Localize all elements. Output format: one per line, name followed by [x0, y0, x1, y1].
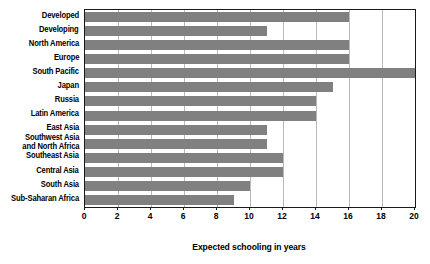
- x-tick-mark: [84, 207, 85, 210]
- category-label: East Asia: [46, 124, 79, 133]
- bar: [85, 195, 234, 205]
- x-tick-label: 20: [402, 211, 426, 221]
- category-label: South Asia: [41, 181, 79, 190]
- bar-series: [85, 10, 415, 207]
- x-axis: 02468101214161820: [84, 207, 414, 231]
- bar: [85, 54, 349, 64]
- x-tick-mark: [282, 207, 283, 210]
- x-tick-mark: [216, 207, 217, 210]
- bar: [85, 153, 283, 163]
- x-tick-mark: [150, 207, 151, 210]
- x-tick-label: 6: [171, 211, 195, 221]
- x-tick-label: 2: [105, 211, 129, 221]
- x-tick-mark: [381, 207, 382, 210]
- expected-schooling-bar-chart: DevelopedDevelopingNorth AmericaEuropeSo…: [0, 0, 430, 264]
- x-tick-label: 12: [270, 211, 294, 221]
- x-tick-mark: [117, 207, 118, 210]
- bar: [85, 40, 349, 50]
- plot-area: [84, 9, 416, 208]
- bar: [85, 125, 267, 135]
- x-tick-mark: [183, 207, 184, 210]
- x-tick-mark: [315, 207, 316, 210]
- x-tick-label: 18: [369, 211, 393, 221]
- category-label: Europe: [54, 54, 79, 63]
- category-label: Russia: [55, 96, 79, 105]
- category-label: Southwest Asia and North Africa: [22, 134, 79, 151]
- bar: [85, 139, 267, 149]
- bar: [85, 181, 250, 191]
- bar: [85, 26, 267, 36]
- x-tick-mark: [249, 207, 250, 210]
- category-label: North America: [29, 40, 79, 49]
- x-tick-label: 4: [138, 211, 162, 221]
- category-label: Japan: [58, 82, 79, 91]
- bar: [85, 96, 316, 106]
- bar: [85, 111, 316, 121]
- x-tick-label: 8: [204, 211, 228, 221]
- x-tick-label: 14: [303, 211, 327, 221]
- x-tick-label: 16: [336, 211, 360, 221]
- x-tick-mark: [414, 207, 415, 210]
- category-label: Sub-Saharan Africa: [11, 195, 79, 204]
- category-label: Developing: [39, 26, 79, 35]
- category-label: South Pacific: [33, 68, 79, 77]
- category-label: Developed: [42, 12, 79, 21]
- x-axis-title: Expected schooling in years: [84, 242, 414, 252]
- x-tick-label: 0: [72, 211, 96, 221]
- bar: [85, 167, 283, 177]
- category-label: Latin America: [31, 110, 79, 119]
- category-axis-labels: DevelopedDevelopingNorth AmericaEuropeSo…: [0, 9, 82, 206]
- x-tick-mark: [348, 207, 349, 210]
- bar: [85, 82, 333, 92]
- category-label: Southeast Asia: [26, 152, 79, 161]
- x-tick-label: 10: [237, 211, 261, 221]
- bar: [85, 68, 415, 78]
- bar: [85, 12, 349, 22]
- category-label: Central Asia: [37, 167, 79, 176]
